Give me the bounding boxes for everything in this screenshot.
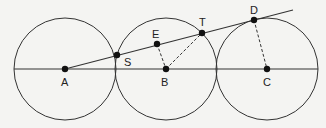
point-E	[154, 41, 160, 47]
point-T	[199, 30, 205, 36]
label-C: C	[263, 76, 271, 88]
label-D: D	[250, 4, 258, 16]
point-C	[264, 66, 270, 72]
dashed-segments-group	[157, 20, 267, 69]
label-A: A	[61, 76, 69, 88]
geometry-diagram: ASEBTDC	[0, 0, 326, 128]
point-B	[163, 66, 169, 72]
point-S	[114, 52, 120, 58]
point-A	[62, 66, 68, 72]
label-E: E	[152, 28, 159, 40]
label-S: S	[124, 56, 131, 68]
dashed-segment-DC	[254, 20, 267, 69]
label-B: B	[161, 76, 168, 88]
lines-group	[14, 10, 318, 69]
dashed-segment-EB	[157, 44, 166, 69]
point-D	[251, 17, 257, 23]
labels-group: ASEBTDC	[61, 4, 271, 88]
label-T: T	[199, 16, 206, 28]
points-group	[62, 17, 270, 72]
